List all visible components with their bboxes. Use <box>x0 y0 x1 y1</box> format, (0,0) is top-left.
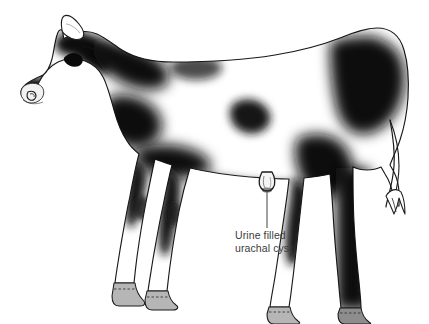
spot-hindleg-far <box>336 168 370 310</box>
hoof-hindleg-far <box>338 308 371 324</box>
urachal-cyst-label: Urine filled urachal cyst <box>235 229 292 254</box>
urachal-cyst <box>259 172 275 193</box>
urachal-cyst-label-line2: urachal cyst <box>235 242 292 255</box>
spot-withers <box>170 56 222 80</box>
spot-neck-crest <box>93 40 169 90</box>
calf-drawing <box>0 0 429 324</box>
muzzle <box>21 83 44 103</box>
hoof-hindleg-near <box>267 307 300 324</box>
urachal-cyst-label-line1: Urine filled <box>235 229 292 242</box>
spot-cheek <box>39 67 71 89</box>
ear <box>61 15 83 39</box>
hoof-foreleg-near <box>112 283 145 306</box>
calf-illustration-figure: Urine filled urachal cyst <box>0 0 429 324</box>
hoof-foreleg-far <box>145 291 178 310</box>
tail-tuft <box>386 190 405 214</box>
